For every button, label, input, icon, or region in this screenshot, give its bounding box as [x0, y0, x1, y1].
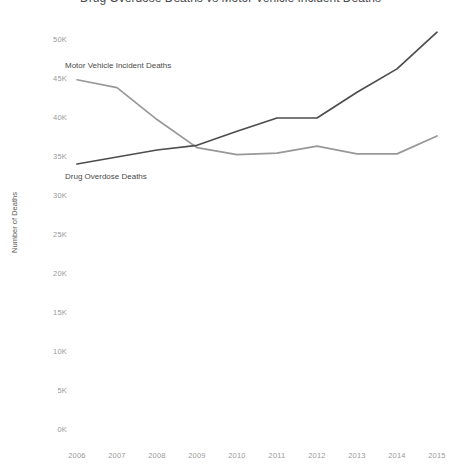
series-label: Motor Vehicle Incident Deaths [65, 61, 171, 70]
line-chart: Drug Overdose Deaths vs Motor Vehicle In… [0, 0, 461, 476]
series-label: Drug Overdose Deaths [65, 172, 147, 181]
plot-area [0, 0, 461, 476]
series-line [77, 80, 437, 155]
